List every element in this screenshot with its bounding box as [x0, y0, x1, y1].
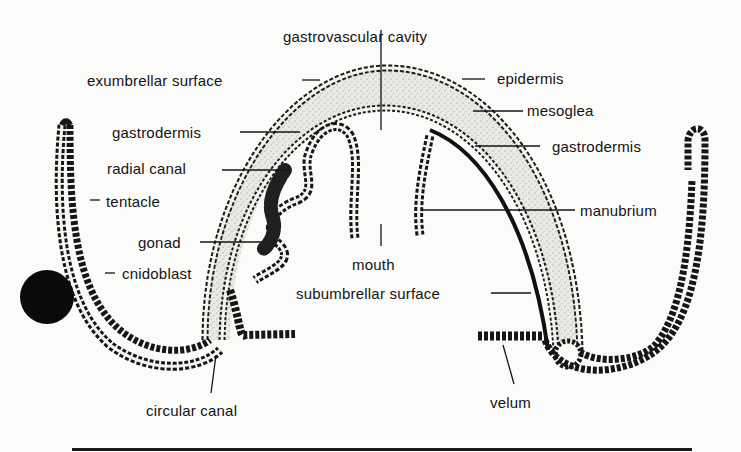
bottom-rule [72, 448, 692, 451]
label-tentacle: tentacle [106, 193, 160, 210]
label-mesoglea: mesoglea [527, 102, 594, 119]
label-manubrium: manubrium [580, 202, 657, 219]
label-subumbrellar-surface: subumbrellar surface [296, 285, 440, 302]
label-gastrodermis-left: gastrodermis [112, 124, 201, 141]
black-dot-marker [20, 270, 74, 324]
label-mouth: mouth [352, 256, 395, 273]
label-cnidoblast: cnidoblast [122, 265, 192, 282]
left-bell-margin [230, 290, 295, 336]
label-exumbrellar-surface: exumbrellar surface [87, 72, 223, 89]
label-epidermis: epidermis [497, 70, 564, 87]
label-velum: velum [490, 394, 531, 411]
label-gonad: gonad [138, 234, 181, 251]
label-circular-canal: circular canal [146, 402, 237, 419]
medusa-drawing [0, 0, 741, 452]
medusa-diagram: gastrovascular cavity exumbrellar surfac… [0, 0, 741, 452]
label-gastrovascular-cavity: gastrovascular cavity [283, 28, 427, 45]
label-radial-canal: radial canal [107, 160, 186, 177]
label-gastrodermis-right: gastrodermis [552, 138, 641, 155]
